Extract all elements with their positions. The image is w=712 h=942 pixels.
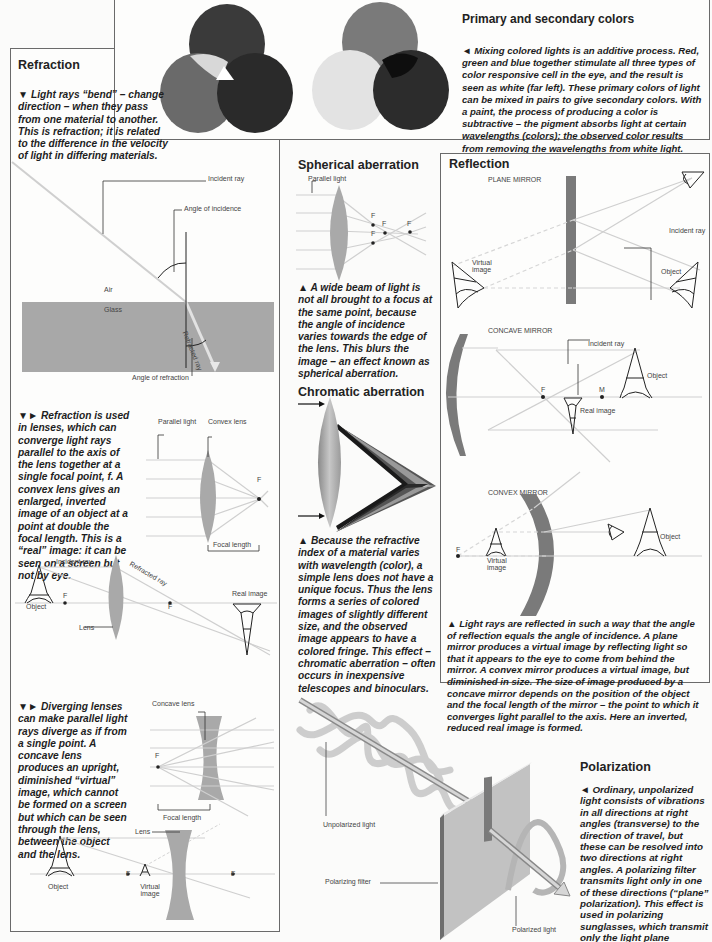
air-label: Air (104, 286, 113, 293)
focal-point-label-4: F (155, 752, 159, 759)
concave-lens-label: Concave lens (152, 700, 194, 707)
real-image-label-2: Real image (580, 407, 615, 414)
polarization-title: Polarization (580, 760, 651, 774)
incident-ray-label: Incident ray (208, 175, 244, 182)
object-label-5: Object (660, 533, 680, 540)
polarizing-filter-label: Polarizing filter (325, 878, 371, 885)
lens-label-2: Lens (135, 828, 150, 835)
primary-colors-title: Primary and secondary colors (462, 12, 634, 26)
parallel-light-label: Parallel light (158, 418, 196, 425)
spherical-f3: F (407, 220, 411, 227)
chromatic-aberration-diagram (298, 400, 438, 528)
angle-of-incidence-label: Angle of incidence (184, 205, 241, 212)
primary-colors-caption: ◄ Mixing colored lights is an additive p… (462, 45, 706, 155)
object-label-3: Object (661, 268, 681, 275)
concave-lens-diagram (140, 700, 280, 830)
incident-ray-label-4: Incident ray (588, 340, 624, 347)
concave-lens-image-diagram (30, 830, 280, 930)
object-label-4: Object (647, 372, 667, 379)
chromatic-aberration-title: Chromatic aberration (298, 385, 424, 399)
concave-f-label: F (541, 386, 545, 393)
additive-color-circles (150, 0, 300, 135)
lens-label: Lens (79, 624, 94, 631)
plane-mirror-diagram (440, 170, 710, 310)
spherical-aberration-diagram (296, 185, 436, 285)
focal-point-label-3: F (168, 603, 172, 610)
spherical-aberration-title: Spherical aberration (298, 158, 419, 172)
refraction-diagram (10, 150, 280, 390)
focal-length-label-2: Focal length (163, 814, 201, 821)
virtual-image-label-2: Virtual image (472, 259, 498, 273)
chromatic-aberration-caption: ▲ Because the refractive index of a mate… (298, 535, 438, 695)
focal-point-label-5: F (126, 870, 130, 877)
virtual-image-label: Virtual image (136, 883, 164, 897)
spherical-aberration-caption: ▲ A wide beam of light is not all brough… (298, 282, 434, 380)
polarized-light-label: Polarized light (512, 926, 556, 933)
focal-point-label: F (257, 476, 261, 483)
unpolarized-light-label: Unpolarized light (323, 821, 375, 828)
glass-label: Glass (104, 306, 122, 313)
angle-of-refraction-label: Angle of refraction (132, 374, 189, 381)
focal-point-label-2: F (63, 592, 67, 599)
incident-ray-label-2: Incident ray (56, 558, 92, 565)
real-image-label: Real image (232, 590, 267, 597)
convex-f-label: F (456, 546, 460, 553)
object-label: Object (26, 603, 46, 610)
convex-mirror-diagram (440, 470, 710, 615)
polarization-diagram (290, 690, 590, 942)
reflection-title: Reflection (449, 157, 509, 171)
refraction-title: Refraction (18, 58, 80, 72)
spherical-f1: F (371, 212, 375, 219)
spherical-f2: F (382, 220, 386, 227)
subtractive-color-circles (300, 0, 450, 135)
focal-length-label: Focal length (213, 541, 251, 548)
spherical-f4: F (371, 230, 375, 237)
incident-ray-label-3: Incident ray (669, 227, 705, 234)
concave-mirror-diagram (440, 330, 710, 455)
concave-m-label: M (599, 386, 605, 393)
object-label-2: Object (48, 883, 68, 890)
focal-point-label-6: F (231, 870, 235, 877)
virtual-image-label-3: Virtual image (487, 557, 511, 571)
convex-lens-label: Convex lens (208, 418, 247, 425)
polarization-caption: ◄ Ordinary, unpolarized light consists o… (580, 784, 710, 942)
